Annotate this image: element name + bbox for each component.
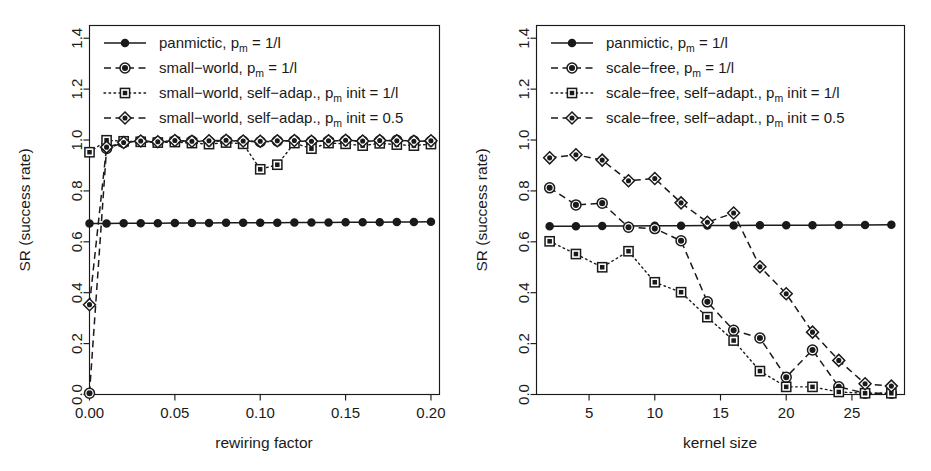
- x-tick-label: 25: [844, 404, 861, 421]
- x-tick-label: 5: [585, 404, 593, 421]
- legend-label: small−world, pm = 1/l: [159, 59, 297, 79]
- y-tick-label: 1.2: [68, 79, 85, 100]
- legend-marker-filled-circle-icon: [569, 40, 576, 47]
- legend-item[interactable]: small−world, self−adap., pm init = 1/l: [104, 84, 398, 104]
- y-tick-label: 1.0: [68, 130, 85, 151]
- legend-label: small−world, self−adap., pm init = 1/l: [159, 84, 398, 104]
- legend-marker-open-diamond-icon: [119, 112, 131, 124]
- legend-label: panmictic, pm = 1/l: [606, 34, 728, 54]
- legend-label: small−world, self−adap., pm init = 0.5: [159, 109, 403, 129]
- legend-label: panmictic, pm = 1/l: [159, 34, 281, 54]
- legend-item[interactable]: scale−free, pm = 1/l: [551, 59, 734, 79]
- y-tick-labels: 0.00.20.40.60.81.01.21.4: [515, 28, 532, 405]
- series-0: [546, 221, 895, 230]
- y-tick-label: 0.4: [68, 282, 85, 303]
- x-tick-label: 15: [712, 404, 729, 421]
- x-axis-title: rewiring factor: [215, 434, 312, 451]
- legend-marker-open-diamond-icon: [566, 112, 578, 124]
- y-tick-label: 0.0: [515, 384, 532, 405]
- y-tick-labels: 0.00.20.40.60.81.01.21.4: [68, 28, 85, 405]
- data-series-group: [84, 134, 437, 398]
- y-tick-label: 1.2: [515, 79, 532, 100]
- legend-marker-open-square-icon: [120, 88, 129, 97]
- y-tick-label: 0.2: [515, 333, 532, 354]
- plot-area-left: 0.000.050.100.150.20 0.00.20.40.60.81.01…: [16, 26, 446, 452]
- chart-svg-right: 510152025 0.00.20.40.60.81.01.21.4 panmi…: [465, 0, 930, 471]
- legend-item[interactable]: scale−free, self−adapt., pm init = 1/l: [551, 84, 839, 104]
- legend-marker-open-square-icon: [567, 88, 576, 97]
- data-series-group: [544, 149, 898, 398]
- x-tick-label: 0.00: [75, 404, 104, 421]
- y-tick-label: 0.6: [515, 231, 532, 252]
- x-tick-label: 20: [778, 404, 795, 421]
- series-1: [85, 135, 436, 398]
- legend-marker-filled-circle-icon: [122, 40, 129, 47]
- figure-container: 0.000.050.100.150.20 0.00.20.40.60.81.01…: [0, 0, 931, 471]
- plot-frame: [537, 26, 905, 395]
- x-tick-label: 0.10: [246, 404, 275, 421]
- legend-marker-dotted-circle-icon: [567, 63, 577, 73]
- legend-item[interactable]: panmictic, pm = 1/l: [551, 34, 728, 54]
- y-tick-label: 0.8: [515, 180, 532, 201]
- x-axis-title: kernel size: [683, 434, 757, 451]
- y-axis-title: SR (success rate): [473, 148, 490, 271]
- y-tick-label: 0.4: [515, 282, 532, 303]
- series-3: [544, 149, 898, 392]
- legend: panmictic, pm = 1/lsmall−world, pm = 1/l…: [104, 34, 403, 129]
- x-tick-label: 0.05: [160, 404, 189, 421]
- plot-frame: [90, 26, 440, 395]
- legend-item[interactable]: small−world, self−adap., pm init = 0.5: [104, 109, 403, 129]
- y-tick-label: 0.6: [68, 231, 85, 252]
- y-tick-label: 0.8: [68, 180, 85, 201]
- legend-label: scale−free, self−adapt., pm init = 1/l: [606, 84, 839, 104]
- chart-panel-left: 0.000.050.100.150.20 0.00.20.40.60.81.01…: [0, 0, 465, 471]
- chart-svg-left: 0.000.050.100.150.20 0.00.20.40.60.81.01…: [0, 0, 465, 471]
- series-0: [86, 218, 434, 227]
- y-tick-label: 0.0: [68, 384, 85, 405]
- x-tick-label: 0.20: [416, 404, 445, 421]
- legend-item[interactable]: small−world, pm = 1/l: [104, 59, 297, 79]
- legend-item[interactable]: panmictic, pm = 1/l: [104, 34, 281, 54]
- y-tick-label: 0.2: [68, 333, 85, 354]
- series-2: [545, 237, 896, 398]
- legend: panmictic, pm = 1/lscale−free, pm = 1/ls…: [551, 34, 845, 129]
- legend-marker-dotted-circle-icon: [120, 63, 130, 73]
- x-tick-labels: 0.000.050.100.150.20: [75, 404, 446, 421]
- x-axis-ticks: [90, 395, 431, 401]
- plot-area-right: 510152025 0.00.20.40.60.81.01.21.4 panmi…: [473, 26, 905, 452]
- legend-label: scale−free, pm = 1/l: [606, 59, 734, 79]
- series-1: [545, 183, 897, 398]
- x-axis-ticks: [589, 395, 852, 401]
- y-tick-label: 1.4: [515, 28, 532, 49]
- y-axis-title: SR (success rate): [16, 148, 33, 271]
- y-tick-label: 1.4: [68, 28, 85, 49]
- x-tick-labels: 510152025: [585, 404, 860, 421]
- legend-label: scale−free, self−adapt., pm init = 0.5: [606, 109, 845, 129]
- legend-item[interactable]: scale−free, self−adapt., pm init = 0.5: [551, 109, 845, 129]
- chart-panel-right: 510152025 0.00.20.40.60.81.01.21.4 panmi…: [465, 0, 930, 471]
- y-tick-label: 1.0: [515, 130, 532, 151]
- x-tick-label: 10: [646, 404, 663, 421]
- x-tick-label: 0.15: [331, 404, 360, 421]
